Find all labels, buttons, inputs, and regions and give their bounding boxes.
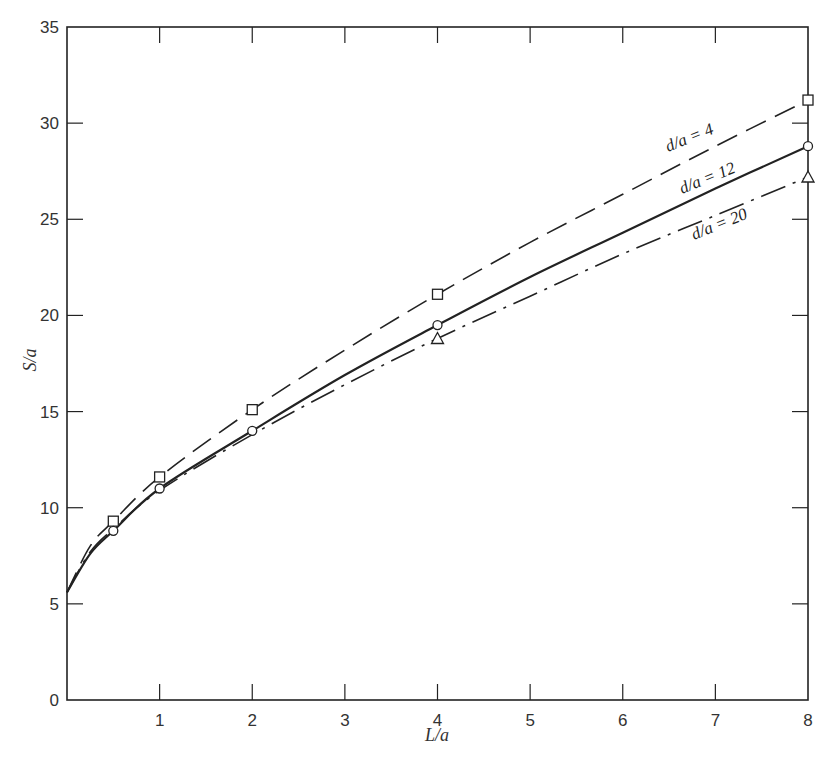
- circle-marker: [109, 526, 118, 535]
- square-marker: [803, 95, 813, 105]
- y-tick-label: 15: [40, 403, 59, 422]
- curve-d-a-12: [67, 146, 808, 592]
- y-tick-label: 20: [40, 306, 59, 325]
- y-axis-title: S/a: [20, 348, 40, 371]
- x-tick-label: 7: [711, 711, 720, 730]
- x-tick-label: 6: [618, 711, 627, 730]
- data-point-markers: [108, 95, 814, 535]
- triangle-marker: [802, 171, 814, 182]
- y-tick-label: 35: [40, 18, 59, 37]
- x-tick-label: 8: [803, 711, 812, 730]
- x-tick-label: 3: [340, 711, 349, 730]
- circle-marker: [248, 426, 257, 435]
- x-tick-label: 1: [155, 711, 164, 730]
- curve-label-d-a-20: d/a = 20: [688, 204, 750, 244]
- circle-marker: [433, 321, 442, 330]
- chart: 1234567805101520253035 L/a S/a d/a = 4 d…: [0, 0, 829, 758]
- y-tick-label: 25: [40, 210, 59, 229]
- y-tick-label: 5: [50, 595, 59, 614]
- x-axis-title: L/a: [424, 725, 449, 745]
- y-tick-label: 30: [40, 114, 59, 133]
- square-marker: [108, 516, 118, 526]
- circle-marker: [155, 484, 164, 493]
- x-tick-label: 5: [525, 711, 534, 730]
- square-marker: [155, 472, 165, 482]
- y-tick-label: 0: [50, 691, 59, 710]
- square-marker: [433, 289, 443, 299]
- x-tick-label: 2: [248, 711, 257, 730]
- y-tick-label: 10: [40, 499, 59, 518]
- triangle-marker: [432, 333, 444, 344]
- square-marker: [247, 405, 257, 415]
- circle-marker: [804, 142, 813, 151]
